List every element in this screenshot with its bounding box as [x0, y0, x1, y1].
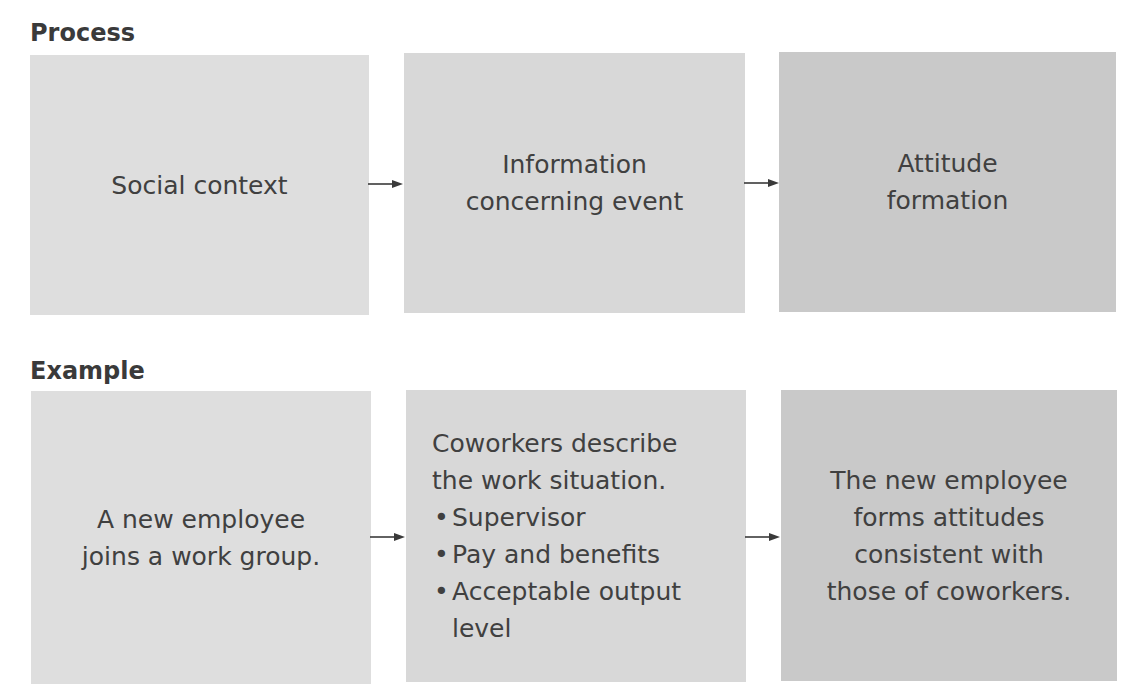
process-box-social-context: Social context [30, 55, 369, 315]
bullet-icon: • [434, 499, 449, 536]
example-heading: Example [30, 359, 145, 383]
process-box-label: Social context [111, 167, 287, 204]
arrow-right-icon [745, 532, 781, 542]
example-box-label: The new employee forms attitudes consist… [827, 462, 1072, 610]
list-item: •Pay and benefits [432, 536, 681, 573]
list-item: •Acceptable output level [432, 573, 681, 647]
process-box-label: Attitude formation [887, 145, 1009, 219]
arrow-right-icon [370, 532, 406, 542]
example-box-label: A new employee joins a work group. [82, 501, 320, 575]
coworkers-describe-lead: Coworkers describe the work situation. [432, 425, 681, 499]
arrow-right-icon [744, 178, 780, 188]
example-box-forms-attitudes: The new employee forms attitudes consist… [781, 390, 1117, 681]
list-item: •Supervisor [432, 499, 681, 536]
work-situation-list: •Supervisor •Pay and benefits •Acceptabl… [432, 499, 681, 647]
process-box-attitude-formation: Attitude formation [779, 52, 1116, 312]
process-box-information: Information concerning event [404, 53, 745, 313]
bullet-icon: • [434, 573, 449, 610]
process-box-label: Information concerning event [466, 146, 684, 220]
arrow-right-icon [368, 179, 404, 189]
example-box-new-employee: A new employee joins a work group. [31, 391, 371, 684]
bullet-icon: • [434, 536, 449, 573]
coworkers-describe-content: Coworkers describe the work situation. •… [432, 425, 681, 647]
process-heading: Process [30, 21, 135, 45]
example-box-coworkers-describe: Coworkers describe the work situation. •… [406, 390, 746, 682]
